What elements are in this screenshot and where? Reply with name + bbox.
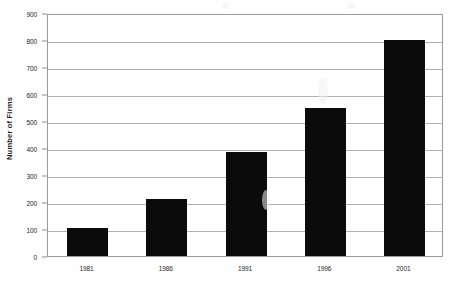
scan-artifact (348, 2, 355, 9)
bar (226, 152, 267, 256)
x-axis-tick-label: 2001 (396, 265, 410, 272)
gridline (48, 96, 442, 97)
gridline (48, 150, 442, 151)
gridline (48, 42, 442, 43)
scan-artifact (222, 2, 229, 9)
gridline (48, 123, 442, 124)
y-axis-tick-label: 300 (13, 173, 37, 180)
bar (305, 108, 346, 256)
x-axis-tick-label: 1991 (238, 265, 252, 272)
gridline (48, 69, 442, 70)
y-axis-tick-label: 700 (13, 65, 37, 72)
plot-area (47, 14, 443, 257)
y-axis-tick-label: 900 (13, 11, 37, 18)
y-axis-tick-label: 100 (13, 227, 37, 234)
y-axis-tick-label: 800 (13, 38, 37, 45)
y-axis-tick-label: 0 (13, 254, 37, 261)
scan-artifact (262, 190, 270, 210)
y-axis-tick-label: 600 (13, 92, 37, 99)
y-axis-tick-label: 400 (13, 146, 37, 153)
y-axis-tick-label: 500 (13, 119, 37, 126)
bar (67, 228, 108, 256)
scan-artifact (318, 78, 328, 104)
bar (384, 40, 425, 256)
bar-chart-figure: Number of Firms 010020030040050060070080… (0, 0, 455, 289)
x-axis-tick-label: 1996 (317, 265, 331, 272)
bar (146, 199, 187, 256)
x-axis-tick-label: 1986 (159, 265, 173, 272)
x-axis-tick-label: 1981 (80, 265, 94, 272)
y-axis-tick-label: 200 (13, 200, 37, 207)
